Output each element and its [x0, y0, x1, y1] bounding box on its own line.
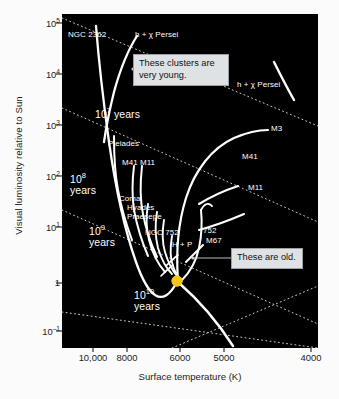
x-tick-8000: 8000 — [117, 352, 138, 363]
label-coma: Coma — [119, 194, 141, 203]
x-tick-10000: 10,000 — [79, 352, 108, 363]
x-tick-6000: 6000 — [170, 352, 191, 363]
isochrone-label-1e10: 1010years — [134, 286, 160, 313]
callout-old: These are old. — [231, 248, 303, 269]
y-tick-1e-1: 10–1 — [14, 325, 60, 337]
label-m67: M67 — [206, 236, 222, 245]
label-hyades: Hyades — [127, 203, 154, 212]
y-axis-label: Visual luminosity relative to Sun — [13, 36, 24, 296]
y-axis-ticks: 105 104 103 102 101 1 10–1 — [0, 0, 60, 399]
label-h-chi-persei-left: h + χ Persei — [135, 30, 178, 39]
x-tick-5000: 5000 — [214, 352, 235, 363]
hr-diagram-figure: 105 104 103 102 101 1 10–1 Visual lumino… — [0, 0, 339, 399]
label-m41: M41 — [242, 152, 258, 161]
x-axis-label: Surface temperature (K) — [62, 371, 318, 382]
y-tick-1e5: 105 — [14, 17, 60, 29]
isochrone-label-1e9: 109years — [89, 222, 115, 249]
label-m3: M3 — [271, 124, 282, 133]
sun-marker — [172, 276, 182, 286]
callout-young: These clusters are very young. — [133, 54, 229, 86]
label-h-plus-p: H + P — [172, 240, 192, 249]
label-m41-m11: M41 M11 — [122, 158, 155, 167]
isochrone-label-1e7: 107 years — [95, 105, 140, 120]
label-ngc-2362: NGC 2362 — [68, 30, 106, 39]
label-ngc-752: NGC 752 — [145, 228, 179, 237]
label-pleiades: Pleiades — [108, 139, 139, 148]
label-m11: M11 — [248, 183, 263, 192]
label-praesepe: Praesepe — [127, 212, 162, 221]
isochrone-label-1e8: 108years — [70, 170, 96, 197]
x-tick-4000: 4000 — [301, 352, 322, 363]
label-752: 752 — [203, 226, 217, 235]
label-h-chi-persei-right: h + χ Persei — [237, 80, 280, 89]
